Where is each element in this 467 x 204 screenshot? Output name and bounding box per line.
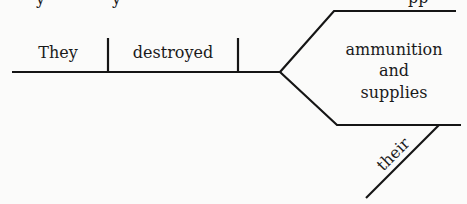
object-word-ammunition: ammunition — [345, 40, 442, 59]
object-word-supplies: supplies — [361, 83, 428, 102]
subject-word: They — [38, 43, 77, 62]
verb-word: destroyed — [133, 43, 213, 62]
diagram-svg: y y pp They destroyed ammunition and sup… — [0, 0, 467, 204]
cropped-text-fragment-mid: y — [111, 0, 121, 8]
cropped-text-fragment-right: pp — [408, 0, 428, 7]
cropped-text-fragment-left: y — [35, 0, 45, 8]
conjunction-word: and — [379, 61, 409, 80]
modifier-word: their — [373, 133, 414, 174]
sentence-diagram: y y pp They destroyed ammunition and sup… — [0, 0, 467, 204]
